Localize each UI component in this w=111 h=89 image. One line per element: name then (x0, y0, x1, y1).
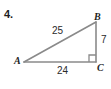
side-length-label-horizontal-leg: 24 (57, 66, 68, 76)
vertex-label-b: B (94, 12, 101, 22)
vertex-label-a: A (14, 56, 21, 66)
vertex-label-c: C (97, 63, 104, 73)
side-length-label-vertical-leg: 7 (101, 35, 107, 45)
geometry-figure: 4. A B C 25 7 24 (0, 0, 111, 89)
problem-number: 4. (4, 9, 13, 20)
right-angle-mark-icon (89, 55, 96, 62)
side-length-label-hypotenuse: 25 (52, 26, 63, 36)
